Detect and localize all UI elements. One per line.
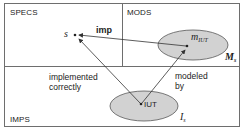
model-dot: [186, 45, 189, 48]
iut-dot: [140, 103, 143, 106]
modeled-label-line2: by: [175, 82, 184, 91]
model-label: mIUT: [191, 32, 208, 43]
imp-edge-label: imp: [96, 26, 112, 35]
diagram-canvas: [0, 0, 243, 132]
region-label-imps: IMPS: [10, 116, 30, 124]
impl-set-label: Is: [180, 112, 186, 123]
modeled-label-line1: modeled: [175, 72, 208, 81]
model-set-label: Ms: [225, 52, 236, 63]
spec-dot: [74, 34, 77, 37]
implemented-correctly-arrow: [79, 39, 140, 103]
iut-label: IUT: [144, 101, 157, 109]
spec-label: s: [64, 29, 68, 39]
region-label-specs: SPECS: [10, 9, 38, 17]
region-label-mods: MODS: [127, 9, 151, 17]
implemented-label-line1: implemented: [49, 73, 98, 82]
implemented-label-line2: correctly: [49, 83, 81, 92]
